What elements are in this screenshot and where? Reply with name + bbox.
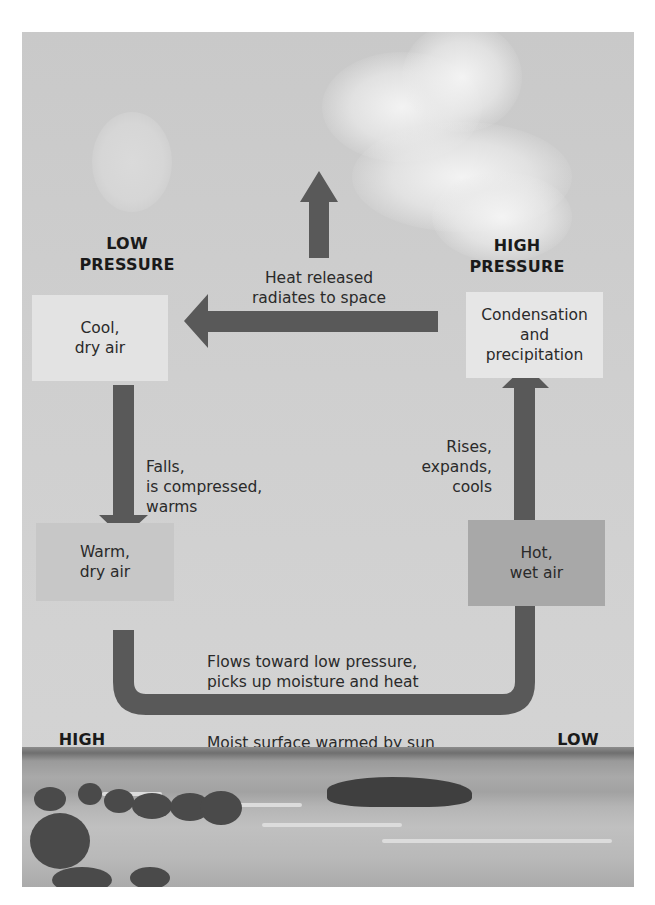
pressure-label-line: HIGH	[457, 235, 577, 256]
tree	[34, 787, 66, 811]
annotation-line: picks up moisture and heat	[207, 672, 487, 692]
surf-line	[262, 823, 402, 827]
box-line: wet air	[510, 563, 563, 583]
tree	[30, 813, 90, 869]
diagram-panel: LOW PRESSURE HIGH PRESSURE HIGH PRESSURE…	[22, 32, 634, 887]
box-line: Warm,	[80, 542, 131, 562]
hot-wet-air-box: Hot, wet air	[468, 520, 605, 606]
annotation-line: Falls,	[146, 457, 286, 477]
tree	[130, 867, 170, 887]
annotation-line: Heat released	[234, 268, 404, 288]
box-line: and	[481, 325, 588, 345]
tree	[78, 783, 102, 805]
arrow-down-icon	[99, 385, 148, 538]
beach-photo	[22, 747, 634, 887]
pressure-label-top-left: LOW PRESSURE	[72, 233, 182, 275]
arrow-up-heat-icon	[300, 171, 338, 258]
box-line: dry air	[75, 338, 126, 358]
annotation-line: Flows toward low pressure,	[207, 652, 487, 672]
tree	[200, 791, 242, 825]
box-line: Cool,	[75, 318, 126, 338]
surf-line	[382, 839, 612, 843]
pressure-label-top-right: HIGH PRESSURE	[457, 235, 577, 277]
annotation-line: is compressed,	[146, 477, 286, 497]
condensation-precipitation-box: Condensation and precipitation	[466, 292, 603, 378]
tree	[132, 793, 172, 819]
box-line: Hot,	[510, 543, 563, 563]
annotation-line: radiates to space	[234, 288, 404, 308]
rises-annotation: Rises, expands, cools	[402, 437, 492, 497]
annotation-line: warms	[146, 497, 286, 517]
annotation-line: Rises,	[402, 437, 492, 457]
rock-island	[327, 777, 472, 807]
box-line: dry air	[80, 562, 131, 582]
box-line: Condensation	[481, 305, 588, 325]
heat-released-annotation: Heat released radiates to space	[234, 268, 404, 308]
falls-annotation: Falls, is compressed, warms	[146, 457, 286, 517]
annotation-line: expands,	[402, 457, 492, 477]
pressure-label-line: PRESSURE	[457, 256, 577, 277]
flows-annotation: Flows toward low pressure, picks up mois…	[207, 652, 487, 692]
tree	[104, 789, 134, 813]
tree	[52, 867, 112, 887]
pressure-label-line: LOW	[72, 233, 182, 254]
cool-dry-air-box: Cool, dry air	[32, 295, 168, 381]
arrow-up-icon	[502, 365, 549, 520]
pressure-label-line: PRESSURE	[72, 254, 182, 275]
box-line: precipitation	[481, 345, 588, 365]
annotation-line: cools	[402, 477, 492, 497]
warm-dry-air-box: Warm, dry air	[36, 523, 174, 601]
